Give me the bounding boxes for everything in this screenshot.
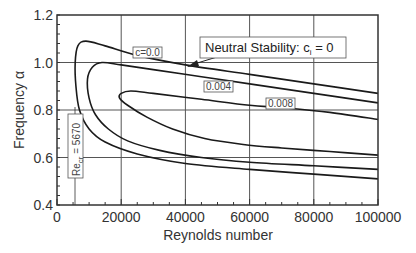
arrow-head-icon [187, 60, 199, 67]
chart: 020000400006000080000100000 0.40.60.81.0… [0, 0, 416, 253]
y-tick-label: 0.8 [34, 102, 54, 118]
contour-label-0004: 0.004 [204, 81, 233, 92]
x-tick-label: 20000 [102, 209, 141, 225]
svg-text:0.004: 0.004 [206, 81, 231, 92]
y-tick-labels: 0.40.60.81.01.2 [34, 7, 54, 213]
critical-reynolds-annotation: Recr = 5670 [68, 107, 85, 205]
x-tick-label: 60000 [230, 209, 269, 225]
contour-label-0008: 0.008 [266, 98, 295, 109]
contour-line-1 [87, 62, 378, 169]
y-tick-label: 1.0 [34, 55, 54, 71]
x-tick-label: 0 [53, 209, 61, 225]
y-axis-label: Frequency α [11, 71, 27, 149]
contour-line-2 [119, 91, 378, 155]
x-axis-label: Reynolds number [163, 227, 273, 243]
svg-text:c=0.0: c=0.0 [135, 47, 160, 58]
x-tick-label: 40000 [166, 209, 205, 225]
contour-label-c0: c=0.0 [133, 47, 162, 58]
svg-text:Neutral Stability: ci = 0: Neutral Stability: ci = 0 [205, 40, 334, 57]
x-tick-label: 100000 [355, 209, 402, 225]
y-tick-label: 1.2 [34, 7, 54, 23]
y-tick-label: 0.4 [34, 197, 54, 213]
svg-text:0.008: 0.008 [268, 98, 293, 109]
x-tick-label: 80000 [294, 209, 333, 225]
x-tick-labels: 020000400006000080000100000 [53, 209, 401, 225]
y-tick-label: 0.6 [34, 150, 54, 166]
